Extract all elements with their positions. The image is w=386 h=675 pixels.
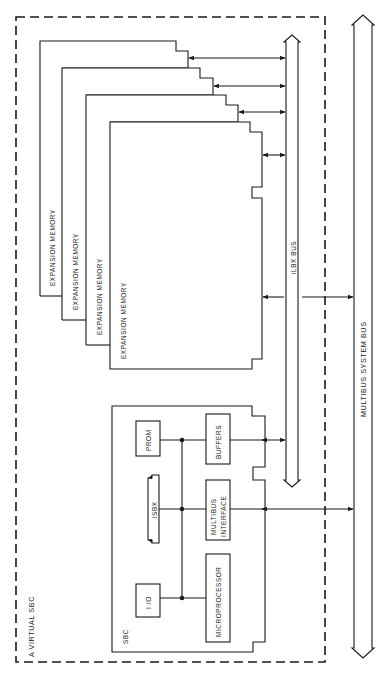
multibus-interface-label-2: INTERFACE [220, 496, 227, 537]
sbc-label: SBC [122, 629, 129, 644]
ilbx-bus-label: iLBX BUS [290, 241, 297, 274]
prom-label: PROM [145, 429, 152, 451]
microprocessor-label: MICROPROCESSOR [215, 566, 222, 637]
multibus-bus-label: MULTIBUS SYSTEM BUS [359, 321, 368, 417]
memory-board-4-label: EXPANSION MEMORY [120, 282, 127, 359]
enclosure-label: A VIRTUAL SBC [27, 596, 36, 657]
memory-board-4 [110, 122, 262, 369]
memory-board-3-label: EXPANSION MEMORY [96, 258, 103, 335]
virtual-sbc-diagram: A VIRTUAL SBC MULTIBUS SYSTEM BUS iLBX B… [0, 0, 386, 675]
memory-board-2-label: EXPANSION MEMORY [72, 233, 79, 310]
isbx-label: iSBX [151, 501, 158, 518]
multibus-interface-label-1: MULTIBUS [210, 498, 217, 535]
buffers-label: BUFFERS [215, 425, 222, 459]
sbc-board [112, 406, 265, 652]
memory-board-1-label: EXPANSION MEMORY [49, 209, 56, 286]
io-label: I /O [145, 596, 152, 609]
